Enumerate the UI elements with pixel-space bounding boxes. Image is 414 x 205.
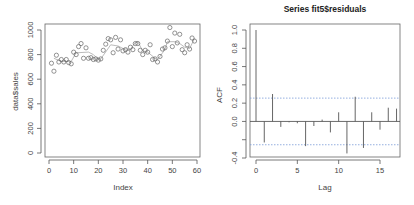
x-tick-label: 30 <box>119 166 127 175</box>
data-point <box>178 32 182 36</box>
data-point <box>185 43 189 47</box>
data-point <box>188 47 192 51</box>
data-point <box>54 53 58 57</box>
x-tick-label: 0 <box>47 166 51 175</box>
x-tick-label: 5 <box>295 166 299 175</box>
acf-bars <box>250 30 400 153</box>
y-tick-label: 0.0 <box>230 116 239 126</box>
data-point <box>49 61 53 65</box>
plot-frame <box>250 24 400 157</box>
plot-frame <box>45 24 200 157</box>
data-point <box>81 56 85 60</box>
scatter-points <box>49 25 196 73</box>
x-axis: 051015 <box>254 160 384 175</box>
x-axis-title: Lag <box>318 183 331 192</box>
y-tick-label: 0.6 <box>230 61 239 71</box>
y-tick-label: 800 <box>26 48 35 61</box>
y-tick-label: 0.4 <box>230 80 239 90</box>
data-point <box>173 31 177 35</box>
y-tick-label: 400 <box>26 98 35 111</box>
y-axis-title: ACF <box>215 87 224 103</box>
fitted-line <box>54 39 195 62</box>
y-tick-label: 0 <box>26 151 35 155</box>
y-tick-label: 0.8 <box>230 43 239 53</box>
data-point <box>155 60 159 64</box>
data-point <box>114 35 118 39</box>
x-tick-label: 15 <box>376 166 384 175</box>
data-point <box>141 53 145 57</box>
data-point <box>69 62 73 66</box>
data-point <box>131 48 135 52</box>
fitted-line-series <box>54 39 195 62</box>
chart-title: Series fit5$residuals <box>284 4 367 14</box>
data-point <box>170 45 174 49</box>
x-tick-label: 20 <box>94 166 102 175</box>
x-tick-label: 40 <box>143 166 151 175</box>
x-tick-label: 10 <box>69 166 77 175</box>
y-axis: -0.40.00.20.40.60.81.0 <box>230 25 246 165</box>
data-point <box>160 47 164 51</box>
x-tick-label: 50 <box>168 166 176 175</box>
data-point <box>123 48 127 52</box>
data-point <box>116 47 120 51</box>
x-tick-label: 0 <box>254 166 258 175</box>
data-point <box>52 69 56 73</box>
data-point <box>84 46 88 50</box>
data-point <box>148 43 152 47</box>
data-point <box>168 25 172 29</box>
data-point <box>104 42 108 46</box>
acf-plot: Series fit5$residuals Lag ACF 051015 -0.… <box>215 4 400 192</box>
data-point <box>183 51 187 55</box>
y-tick-label: 600 <box>26 73 35 86</box>
data-point <box>62 60 66 64</box>
y-tick-label: 1000 <box>26 22 35 39</box>
x-tick-label: 10 <box>334 166 342 175</box>
data-point <box>106 37 110 41</box>
data-point <box>138 48 142 52</box>
data-point <box>118 38 122 42</box>
y-tick-label: 0.2 <box>230 98 239 108</box>
sales-scatter-plot: Index data$sales 0102030405060 020040060… <box>11 22 201 192</box>
data-point <box>79 41 83 45</box>
y-axis: 02004006008001000 <box>26 22 41 155</box>
x-axis: 0102030405060 <box>47 160 201 175</box>
data-point <box>72 50 76 54</box>
data-point <box>126 50 130 54</box>
x-axis-title: Index <box>113 183 133 192</box>
y-tick-label: 1.0 <box>230 25 239 35</box>
y-tick-label: 200 <box>26 122 35 135</box>
y-tick-label: -0.4 <box>230 152 239 165</box>
data-point <box>121 49 125 53</box>
y-axis-title: data$sales <box>11 72 20 111</box>
data-point <box>111 51 115 55</box>
data-point <box>109 38 113 42</box>
x-tick-label: 60 <box>193 166 201 175</box>
data-point <box>101 48 105 52</box>
chart-canvas: Index data$sales 0102030405060 020040060… <box>0 0 414 205</box>
data-point <box>96 58 100 62</box>
